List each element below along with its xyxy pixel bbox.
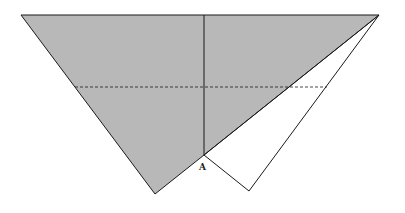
point-label-a: A bbox=[198, 162, 207, 172]
fold-diagram: A bbox=[0, 0, 405, 213]
